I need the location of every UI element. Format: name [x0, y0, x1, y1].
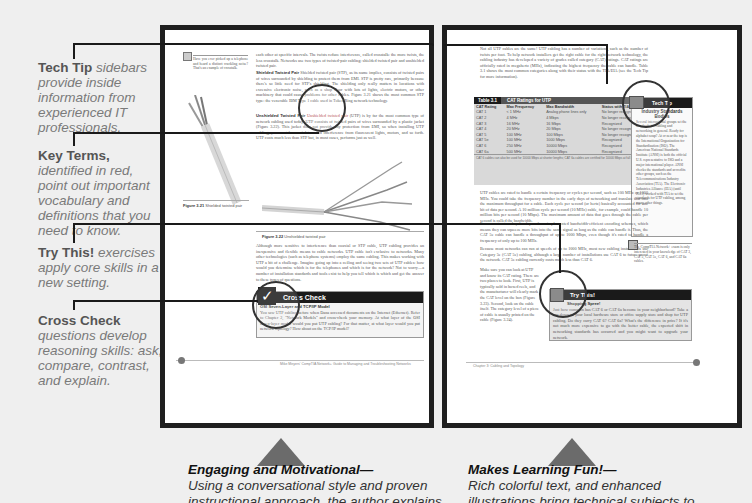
callout-body: identified in red, point out important v… [38, 163, 151, 238]
leader-key-terms-drop [73, 132, 75, 146]
right-cat-rating-paragraph: Make sure you can look at UTP and know i… [480, 267, 540, 323]
callout-title: Tech Tip [38, 60, 92, 75]
callout-cross-check: Cross Check questions develop reasoning … [38, 313, 163, 388]
right-bandwidth-paragraph: UTP cables are rated to handle a certain… [480, 190, 648, 224]
callout-body: questions develop reasoning skills: ask,… [38, 328, 163, 388]
leader-tech-tip-down [606, 44, 608, 84]
leader-try-this-h1 [73, 223, 559, 225]
right-footer-rule [466, 362, 698, 363]
leader-try-this-rise [559, 223, 561, 273]
left-intro-paragraph: each other at specific intervals. The tw… [256, 52, 424, 69]
try-this-magnifier [539, 270, 587, 318]
tech-tip-note: Have you ever picked up a telephone and … [193, 55, 248, 71]
left-page-number-dot [178, 357, 185, 364]
bottom-left-blurb: Engaging and Motivational— Using a conve… [188, 462, 443, 503]
stp-heading: Shielded Twisted Pair [256, 70, 299, 75]
fig21-caption: Figure 3.21 Shielded twisted pair [183, 203, 242, 208]
left-footer-rule [176, 360, 424, 361]
right-cat5e-paragraph: Because most networks can run at speeds … [480, 246, 648, 263]
left-utp-paragraph: Although more sensitive to interference … [256, 243, 424, 282]
leader-tech-tip [73, 43, 433, 45]
fig21-rule [183, 200, 249, 201]
leader-tech-tip-drop [73, 43, 75, 59]
left-footer: Mike Meyers' CompTIA Network+ Guide to M… [280, 362, 411, 366]
fig22-rule [256, 231, 424, 232]
blurb-body: Using a conversational style and proven … [188, 478, 442, 503]
leader-cross-check [73, 300, 258, 302]
callout-title: Try This! [38, 245, 94, 260]
blurb-title: Makes Learning Fun!— [468, 462, 617, 477]
utp-cable-illustration [262, 160, 422, 240]
callout-try-this: Try This! exercises apply core skills in… [38, 245, 163, 290]
exam-tip-note: The CompTIA Network+ exam is only intere… [634, 243, 692, 264]
stp-cable-illustration [185, 95, 245, 205]
cross-check-magnifier [252, 281, 300, 329]
right-page-number-dot [693, 359, 700, 366]
leader-tech-tip-right-segment [444, 44, 606, 46]
bottom-right-blurb: Makes Learning Fun!— Rich colorful text,… [468, 462, 698, 503]
table-label: Table 3.1 [474, 97, 501, 104]
leader-key-terms [73, 132, 319, 134]
right-intro-paragraph: Not all UTP cables are the same! UTP cab… [480, 46, 648, 80]
blurb-body: Rich colorful text, and enhanced illustr… [468, 478, 695, 503]
leader-cross-check-drop [73, 300, 75, 310]
leader-try-this-drop [73, 223, 75, 243]
callout-title: Key Terms, [38, 148, 110, 163]
table-footnotes: CAT 6 cables can also be used for 10000 … [474, 154, 650, 161]
callout-title: Cross Check [38, 313, 121, 328]
callout-tech-tip: Tech Tip sidebars provide inside informa… [38, 60, 163, 135]
leader-tech-tip-right [432, 44, 434, 46]
fig22-caption: Figure 3.22 Unshielded twisted pair [262, 234, 326, 239]
table-title: CAT Ratings for UTP [501, 97, 557, 104]
tech-tip-magnifier [622, 80, 670, 128]
key-term-magnifier [298, 84, 346, 132]
right-footer: Chapter 3: Cabling and Topology [473, 364, 524, 368]
tech-tip-note-icon [183, 52, 192, 61]
blurb-title: Engaging and Motivational— [188, 462, 373, 477]
